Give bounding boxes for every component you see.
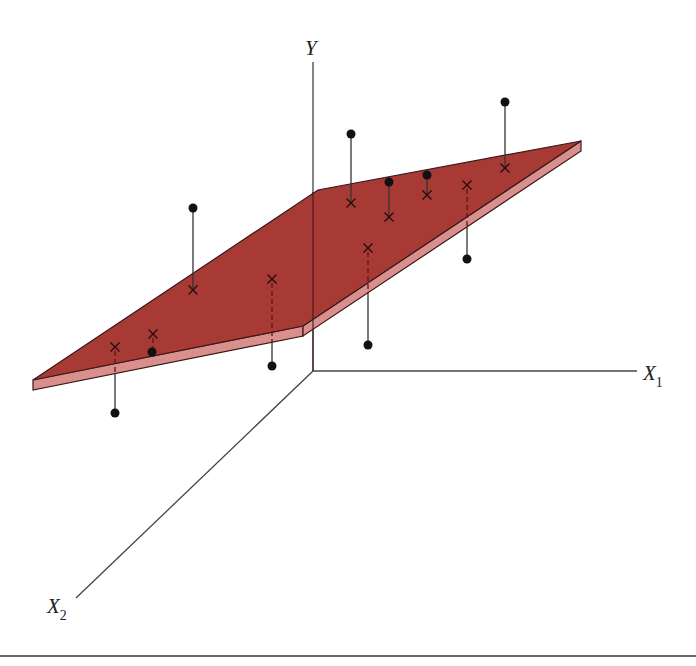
observed-point-dot-icon [385,178,394,187]
observed-point-dot-icon [364,341,373,350]
observed-point-dot-icon [111,409,120,418]
observed-point-dot-icon [189,204,198,213]
regression-plane-diagram: Y X1 X2 [0,0,696,666]
observed-point-dot-icon [423,171,432,180]
observed-point-dot-icon [268,362,277,371]
x1-axis-label: X1 [642,361,663,390]
observed-point-dot-icon [347,130,356,139]
observed-point-dot-icon [463,255,472,264]
x2-axis-label: X2 [46,594,67,623]
y-axis-label: Y [305,36,319,60]
regression-plane [33,141,581,380]
observed-point-dot-icon [148,348,157,357]
observed-point-dot-icon [501,98,510,107]
x2-axis [76,371,313,598]
